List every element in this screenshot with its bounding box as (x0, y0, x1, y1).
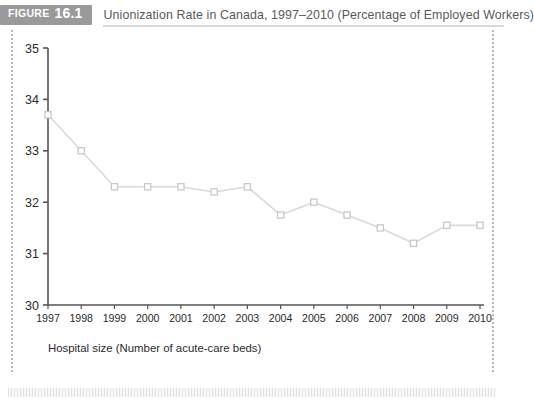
x-axis-tick-label: 2010 (468, 312, 492, 324)
x-axis-tick-label: 2003 (236, 312, 260, 324)
bottom-decorative-band (8, 388, 496, 397)
y-axis-tick-label: 33 (25, 144, 39, 158)
x-axis-tick-label: 2008 (402, 312, 426, 324)
figure-badge-number: 16.1 (54, 5, 82, 21)
y-axis-tick-label: 35 (25, 42, 39, 56)
data-point-marker (78, 148, 84, 154)
x-axis-tick-label: 2009 (435, 312, 459, 324)
data-point-marker (344, 212, 350, 218)
figure-header: FIGURE 16.1 Unionization Rate in Canada,… (0, 3, 504, 27)
x-axis: 1997199819992000200120022003200420052006… (36, 305, 492, 324)
data-point-marker (377, 225, 383, 231)
x-axis-tick-label: 2001 (169, 312, 193, 324)
y-axis-tick-label: 30 (25, 299, 39, 313)
data-point-marker (244, 184, 250, 190)
y-axis-tick-label: 31 (25, 247, 39, 261)
x-axis-tick-label: 2004 (269, 312, 293, 324)
data-point-marker (211, 189, 217, 195)
data-point-marker (145, 184, 151, 190)
header-divider (103, 25, 504, 27)
figure-badge-word: FIGURE (8, 7, 49, 19)
figure-title: Unionization Rate in Canada, 1997–2010 (… (104, 8, 534, 22)
plot-background (48, 48, 480, 305)
data-point-marker (278, 212, 284, 218)
data-point-marker (444, 222, 450, 228)
y-axis-tick-label: 34 (25, 93, 39, 107)
x-axis-tick-label: 1998 (69, 312, 93, 324)
x-axis-caption: Hospital size (Number of acute-care beds… (48, 342, 262, 354)
x-axis-tick-label: 2002 (202, 312, 226, 324)
y-axis: 303132333435 (25, 42, 48, 313)
x-axis-tick-label: 1999 (103, 312, 127, 324)
x-axis-tick-label: 2005 (302, 312, 326, 324)
data-point-marker (410, 240, 416, 246)
line-chart: 303132333435 199719981999200020012002200… (0, 30, 504, 360)
x-axis-tick-label: 2006 (335, 312, 359, 324)
data-point-marker (178, 184, 184, 190)
x-axis-tick-label: 2000 (136, 312, 160, 324)
x-axis-tick-label: 1997 (36, 312, 60, 324)
chart-area: 303132333435 199719981999200020012002200… (0, 30, 504, 360)
data-point-marker (477, 222, 483, 228)
figure-badge: FIGURE 16.1 (0, 5, 92, 25)
x-axis-tick-label: 2007 (369, 312, 393, 324)
y-axis-tick-label: 32 (25, 196, 39, 210)
data-point-marker (311, 199, 317, 205)
data-point-marker (45, 112, 51, 118)
data-point-marker (111, 184, 117, 190)
